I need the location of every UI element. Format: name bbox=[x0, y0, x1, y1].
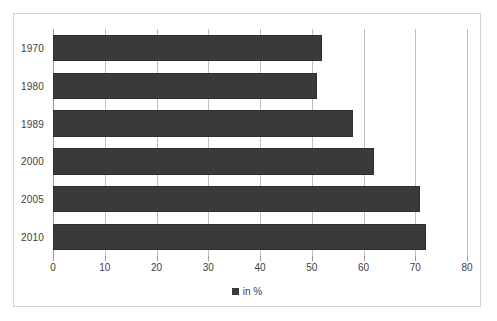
bar-row: 2010 bbox=[53, 224, 467, 250]
bar-row: 1980 bbox=[53, 73, 467, 99]
tick-label-80: 80 bbox=[461, 262, 472, 273]
tick-label-70: 70 bbox=[410, 262, 421, 273]
bar-row: 1989 bbox=[53, 110, 467, 136]
bar-2005[interactable] bbox=[53, 186, 420, 212]
gridline-80 bbox=[467, 29, 468, 256]
gridline-70 bbox=[415, 29, 416, 256]
bar-row: 2005 bbox=[53, 186, 467, 212]
gridline-60 bbox=[364, 29, 365, 256]
gridline-0 bbox=[53, 29, 54, 256]
category-label-1989: 1989 bbox=[21, 118, 44, 129]
gridline-40 bbox=[260, 29, 261, 256]
tick-label-10: 10 bbox=[99, 262, 110, 273]
tick-label-60: 60 bbox=[358, 262, 369, 273]
tick-mark-40 bbox=[260, 256, 261, 261]
category-label-1980: 1980 bbox=[21, 80, 44, 91]
bar-1980[interactable] bbox=[53, 73, 317, 99]
chart-legend: in % bbox=[14, 286, 480, 297]
gridline-20 bbox=[157, 29, 158, 256]
x-axis: 01020304050607080 bbox=[53, 256, 467, 278]
tick-label-20: 20 bbox=[151, 262, 162, 273]
tick-label-0: 0 bbox=[50, 262, 56, 273]
bar-2010[interactable] bbox=[53, 224, 426, 250]
bar-row: 1970 bbox=[53, 35, 467, 61]
category-label-2000: 2000 bbox=[21, 156, 44, 167]
tick-mark-60 bbox=[364, 256, 365, 261]
tick-mark-70 bbox=[415, 256, 416, 261]
gridline-10 bbox=[105, 29, 106, 256]
tick-label-40: 40 bbox=[254, 262, 265, 273]
legend-swatch-in-percent bbox=[232, 288, 239, 295]
tick-mark-10 bbox=[105, 256, 106, 261]
bar-row: 2000 bbox=[53, 148, 467, 174]
tick-mark-20 bbox=[157, 256, 158, 261]
bar-1970[interactable] bbox=[53, 35, 322, 61]
legend-label-in-percent: in % bbox=[243, 286, 262, 297]
tick-mark-80 bbox=[467, 256, 468, 261]
category-label-1970: 1970 bbox=[21, 42, 44, 53]
bar-2000[interactable] bbox=[53, 148, 374, 174]
category-label-2005: 2005 bbox=[21, 194, 44, 205]
tick-mark-30 bbox=[208, 256, 209, 261]
plot-area: 197019801989200020052010 bbox=[53, 29, 467, 256]
gridline-50 bbox=[312, 29, 313, 256]
tick-mark-50 bbox=[312, 256, 313, 261]
chart-frame: 197019801989200020052010 010203040506070… bbox=[13, 13, 481, 307]
category-label-2010: 2010 bbox=[21, 232, 44, 243]
bar-1989[interactable] bbox=[53, 110, 353, 136]
gridline-30 bbox=[208, 29, 209, 256]
tick-label-50: 50 bbox=[306, 262, 317, 273]
tick-label-30: 30 bbox=[203, 262, 214, 273]
tick-mark-0 bbox=[53, 256, 54, 261]
